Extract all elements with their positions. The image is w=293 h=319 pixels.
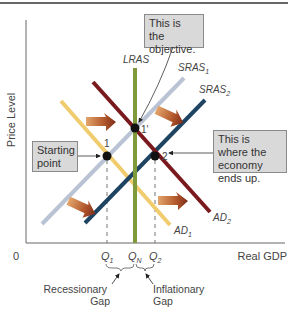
- q1-label: Q1: [101, 250, 114, 264]
- inflationary-brace: [136, 264, 154, 271]
- origin-label: 0: [13, 250, 19, 262]
- lras-label: LRAS: [123, 54, 149, 65]
- point-1-prime-label: 1': [141, 124, 149, 135]
- ad-shift-arrow-lower: [158, 192, 188, 210]
- recessionary-pointer: [112, 274, 119, 284]
- equilibrium-point-1: [103, 152, 112, 161]
- y-axis-label: Price Level: [5, 93, 17, 147]
- x-axis-label: Real GDP: [237, 250, 287, 262]
- starting-point-callout: Starting point: [32, 141, 78, 172]
- equilibrium-point-1-prime: [131, 124, 140, 133]
- inflationary-pointer: [146, 274, 153, 284]
- recessionary-gap-label: Recessionary Gap: [43, 283, 110, 307]
- point-1-label: 1: [104, 138, 110, 149]
- ends-up-callout: This is where the economy ends up.: [213, 130, 287, 173]
- ad2-curve: [93, 82, 210, 212]
- ad-shift-arrow-upper: [86, 113, 116, 131]
- sras1-label: SRAS1: [178, 62, 209, 75]
- sras2-label: SRAS2: [199, 84, 230, 97]
- objective-callout: This is the objective.: [144, 14, 204, 48]
- qn-label: QN: [128, 250, 143, 264]
- equilibrium-point-2: [151, 152, 160, 161]
- point-2-label: 2: [162, 151, 168, 162]
- inflationary-gap-label: Inflationary Gap: [153, 283, 207, 307]
- recessionary-brace: [106, 264, 134, 271]
- ad2-label: AD2: [212, 212, 231, 225]
- q2-label: Q2: [149, 250, 162, 264]
- ad1-label: AD1: [173, 225, 192, 238]
